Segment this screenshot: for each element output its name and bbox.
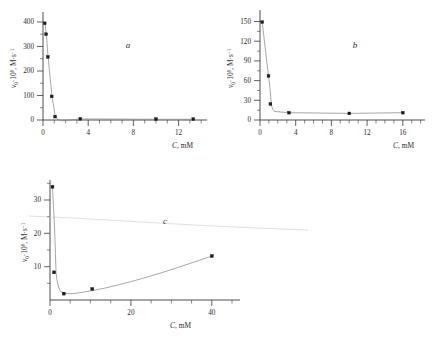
- y-ticks-b: 0 30 60 90 120 150: [240, 18, 260, 125]
- y-axis-unit-exponent: −1: [226, 48, 232, 54]
- x-tick-label: 12: [175, 129, 183, 137]
- data-markers-b: [261, 21, 404, 115]
- x-tick-label: 0: [41, 129, 45, 137]
- panel-letter-b: b: [353, 40, 358, 50]
- y-tick-label: 120: [240, 38, 251, 46]
- data-markers-a: [43, 22, 194, 121]
- y-ticks-c: 10 20 30: [34, 183, 50, 283]
- y-axis-title-a: v0·109, M·s−1: [9, 48, 19, 88]
- y-tick-label: 90: [244, 57, 252, 65]
- y-tick-label: 0: [30, 116, 34, 124]
- x-axis-unit: , mM: [175, 321, 191, 330]
- y-axis-mid: ·10: [20, 246, 29, 256]
- x-axis-title-b: C, mM: [393, 141, 414, 150]
- y-tick-label: 100: [23, 92, 34, 100]
- y-axis-title-c: v0·109, M·s−1: [20, 222, 30, 262]
- x-axis-unit: , mM: [177, 141, 193, 150]
- x-tick-label: 16: [399, 129, 407, 137]
- panel-letter-c: c: [163, 216, 167, 226]
- y-axis-title-b: v0·109, M·s−1: [226, 48, 236, 88]
- svg-text:v0·109, M·s−1: v0·109, M·s−1: [9, 48, 19, 88]
- x-tick-label: 4: [294, 129, 298, 137]
- x-tick-label: 0: [258, 129, 262, 137]
- data-curve-a: [45, 24, 193, 121]
- y-axis-unit-exponent: −1: [9, 48, 15, 54]
- chart-panel-a: 0 100 200 300 400: [0, 0, 220, 160]
- x-ticks-a: 0 4 8 12: [41, 120, 201, 137]
- y-tick-label: 150: [240, 18, 251, 26]
- y-axis-unit-exponent: −1: [20, 222, 26, 228]
- x-axis-unit: , mM: [398, 141, 414, 150]
- x-tick-label: 8: [330, 129, 334, 137]
- y-tick-label: 30: [244, 97, 252, 105]
- x-ticks-c: 0 20 40: [48, 300, 232, 317]
- y-tick-label: 60: [244, 77, 252, 85]
- y-axis-unit: , M·s: [20, 228, 29, 244]
- panel-letter-a: a: [126, 40, 131, 50]
- y-tick-label: 0: [247, 116, 251, 124]
- x-tick-label: 0: [48, 309, 52, 317]
- svg-text:v0·109, M·s−1: v0·109, M·s−1: [226, 48, 236, 88]
- chart-panel-b: 0 30 60 90 120 150: [215, 0, 437, 160]
- chart-panel-c: 10 20 30 0 20 40: [18, 170, 318, 343]
- x-ticks-b: 0 4 8 12 16: [258, 120, 420, 137]
- y-tick-label: 400: [23, 18, 34, 26]
- data-markers-c: [51, 185, 213, 295]
- figure-container: 0 100 200 300 400: [0, 0, 437, 343]
- y-axis-unit: , M·s: [226, 54, 235, 70]
- x-tick-label: 20: [127, 309, 135, 317]
- data-curve-b: [262, 22, 403, 113]
- x-tick-label: 40: [208, 309, 216, 317]
- data-curve-c: [52, 187, 211, 294]
- y-axis-mid: ·10: [226, 72, 235, 82]
- scan-artifact-line: [28, 216, 308, 230]
- y-axis-mid: ·10: [9, 72, 18, 82]
- y-ticks-a: 0 100 200 300 400: [23, 18, 43, 124]
- y-tick-label: 200: [23, 67, 34, 75]
- x-tick-label: 8: [132, 129, 136, 137]
- x-axis-title-a: C, mM: [172, 141, 193, 150]
- x-tick-label: 4: [86, 129, 90, 137]
- y-tick-label: 20: [34, 230, 42, 238]
- y-tick-label: 300: [23, 43, 34, 51]
- y-axis-unit: , M·s: [9, 54, 18, 70]
- y-tick-label: 10: [34, 263, 42, 271]
- y-tick-label: 30: [34, 196, 42, 204]
- svg-text:v0·109, M·s−1: v0·109, M·s−1: [20, 222, 30, 262]
- x-tick-label: 12: [364, 129, 372, 137]
- x-axis-title-c: C, mM: [170, 321, 191, 330]
